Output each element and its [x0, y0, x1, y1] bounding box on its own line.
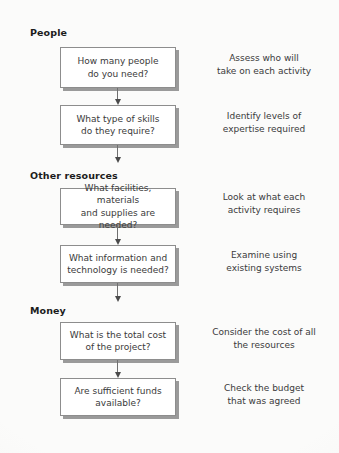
- arrow-head-icon: [115, 296, 121, 302]
- node-are-sufficient-funds-available: Are sufficient funds available?: [60, 378, 176, 416]
- node-label: How many people do you need?: [77, 55, 158, 80]
- note-look-at-what-each-activity: Look at what each activity requires: [196, 191, 332, 216]
- node-label: What type of skills do they require?: [76, 113, 159, 138]
- arrow-node2-to-node3: [112, 145, 123, 163]
- node-label: What facilities, materials and supplies …: [66, 182, 170, 232]
- note-identify-levels-of-expertise: Identify levels of expertise required: [196, 110, 332, 135]
- arrow-stem: [117, 283, 118, 296]
- section-heading-people: People: [30, 27, 67, 38]
- node-what-is-the-total-cost: What is the total cost of the project?: [60, 322, 176, 360]
- note-assess-who-will-take-on: Assess who will take on each activity: [196, 52, 332, 77]
- arrow-head-icon: [115, 157, 121, 163]
- arrow-node1-to-node2: [112, 88, 123, 105]
- note-check-the-budget-that-was-agreed: Check the budget that was agreed: [196, 382, 332, 407]
- arrow-node3-to-node4: [112, 225, 123, 245]
- node-how-many-people: How many people do you need?: [60, 47, 176, 88]
- section-heading-money: Money: [30, 305, 66, 316]
- flowchart-diagram: People How many people do you need? Asse…: [0, 0, 339, 453]
- node-what-information-and-technology: What information and technology is neede…: [60, 245, 176, 283]
- arrow-stem: [117, 360, 118, 372]
- node-label: What is the total cost of the project?: [70, 329, 166, 354]
- arrow-stem: [117, 88, 118, 99]
- node-what-facilities-materials: What facilities, materials and supplies …: [60, 188, 176, 225]
- node-what-type-of-skills: What type of skills do they require?: [60, 105, 176, 145]
- node-label: What information and technology is neede…: [67, 252, 168, 277]
- node-label: Are sufficient funds available?: [74, 385, 161, 410]
- arrow-node5-to-node6: [112, 360, 123, 378]
- note-examine-using-existing-systems: Examine using existing systems: [196, 249, 332, 274]
- arrow-stem: [117, 145, 118, 157]
- arrow-node4-to-node5: [112, 283, 123, 302]
- note-consider-the-cost-of-all: Consider the cost of all the resources: [192, 326, 336, 351]
- section-heading-other-resources: Other resources: [30, 170, 118, 181]
- arrow-stem: [117, 225, 118, 239]
